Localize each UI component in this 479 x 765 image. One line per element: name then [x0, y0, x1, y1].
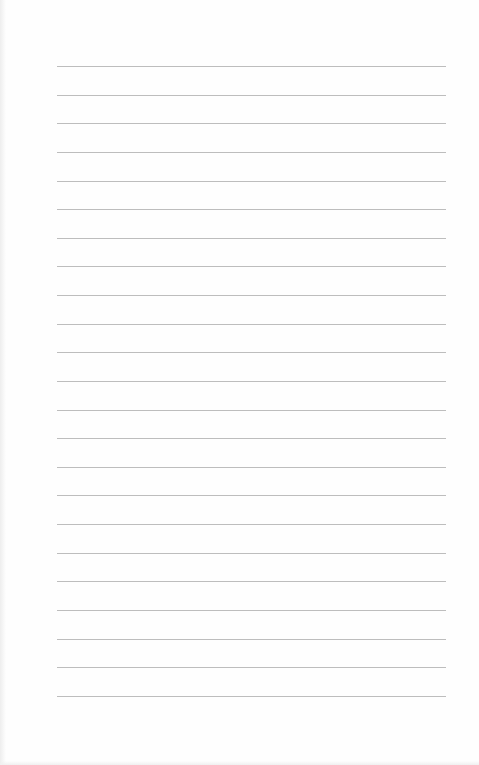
- ruled-line: [57, 381, 446, 382]
- ruled-line: [57, 581, 446, 582]
- ruled-line: [57, 295, 446, 296]
- ruled-line: [57, 95, 446, 96]
- ruled-line: [57, 181, 446, 182]
- ruled-line: [57, 553, 446, 554]
- lined-paper-page: [0, 0, 479, 765]
- ruled-line: [57, 266, 446, 267]
- ruled-line: [57, 438, 446, 439]
- ruled-line: [57, 410, 446, 411]
- ruled-line: [57, 209, 446, 210]
- ruled-line: [57, 66, 446, 67]
- ruled-line: [57, 696, 446, 697]
- ruled-line: [57, 238, 446, 239]
- ruled-line: [57, 352, 446, 353]
- ruled-line: [57, 667, 446, 668]
- ruled-line: [57, 152, 446, 153]
- ruled-line: [57, 324, 446, 325]
- ruled-line: [57, 123, 446, 124]
- ruled-line: [57, 524, 446, 525]
- ruled-line: [57, 639, 446, 640]
- ruled-line: [57, 467, 446, 468]
- ruled-line: [57, 495, 446, 496]
- ruled-lines: [0, 0, 479, 765]
- ruled-line: [57, 610, 446, 611]
